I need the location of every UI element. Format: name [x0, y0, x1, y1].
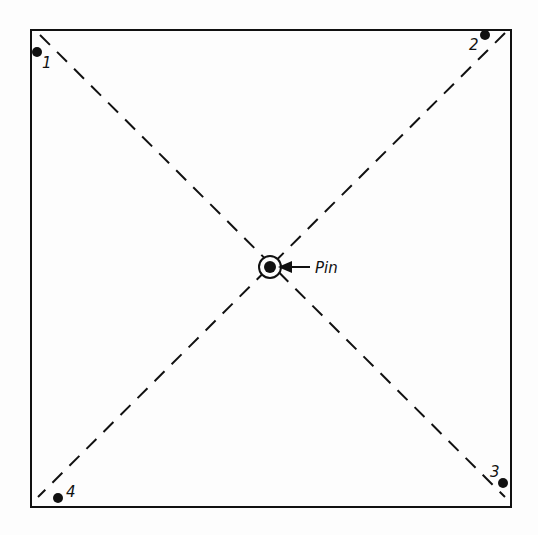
pin-label: Pin	[315, 259, 338, 277]
corner-label-3: 3	[490, 463, 500, 481]
square-diagram: 1 2 3 4 Pin	[0, 0, 538, 535]
pin-icon	[259, 256, 281, 278]
corner-label-1: 1	[42, 54, 52, 72]
corner-label-2: 2	[469, 36, 479, 54]
pin-arrow-icon	[278, 261, 310, 273]
corner-dot-4	[53, 493, 63, 503]
corner-label-4: 4	[66, 483, 76, 501]
corner-dot-1	[32, 47, 42, 57]
corner-dot-2	[480, 30, 490, 40]
